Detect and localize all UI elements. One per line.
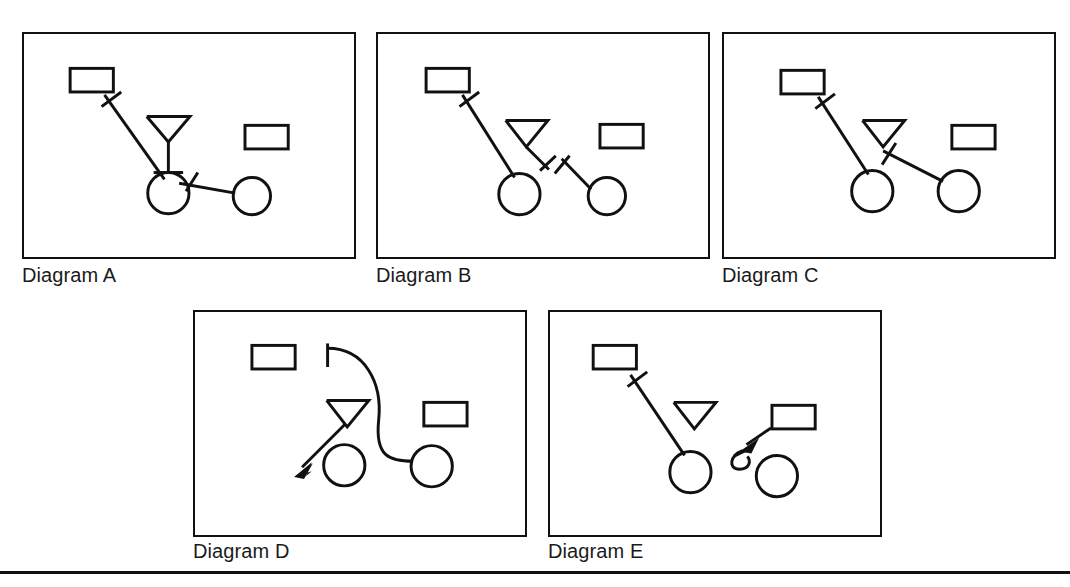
diagram-page: Diagram A Diagram B (0, 0, 1070, 587)
tick-mark-circle-connector (186, 173, 198, 192)
bottom-horizontal-rule (0, 571, 1070, 574)
triangle-down[interactable] (147, 117, 190, 143)
rectangle-right[interactable] (245, 125, 288, 149)
triangle-down[interactable] (327, 400, 369, 427)
diagram-b-canvas (378, 34, 708, 257)
caption-diagram-a: Diagram A (22, 264, 116, 287)
diagram-panel-c[interactable] (722, 32, 1056, 259)
connector-rect-to-circle[interactable] (631, 375, 685, 456)
rectangle-right[interactable] (424, 402, 467, 426)
circle-right[interactable] (233, 177, 270, 214)
circle-left[interactable] (852, 171, 893, 212)
diagram-panel-e[interactable] (548, 310, 882, 537)
caption-diagram-d: Diagram D (193, 540, 289, 563)
diagram-a-canvas (24, 34, 354, 257)
circle-left[interactable] (499, 173, 540, 214)
rectangle-right[interactable] (772, 405, 815, 429)
diagram-d-canvas (195, 312, 525, 535)
diagram-panel-b[interactable] (376, 32, 710, 259)
rectangle-top-left[interactable] (426, 68, 469, 92)
rectangle-right[interactable] (600, 124, 643, 148)
circle-left[interactable] (324, 445, 365, 486)
connector-dangling-to-circle[interactable] (562, 159, 591, 189)
diagram-e-canvas (550, 312, 880, 535)
circle-right[interactable] (411, 446, 452, 487)
diagram-panel-d[interactable] (193, 310, 527, 537)
rectangle-top-left[interactable] (781, 70, 824, 94)
triangle-down[interactable] (674, 402, 716, 429)
circle-left[interactable] (670, 451, 711, 492)
caption-diagram-c: Diagram C (722, 264, 818, 287)
diagram-panel-a[interactable] (22, 32, 356, 259)
circle-right[interactable] (938, 171, 979, 212)
connector-arrow-rect-to-hook[interactable] (746, 428, 771, 445)
circle-left[interactable] (148, 173, 189, 214)
connector-rect-to-circle[interactable] (818, 97, 868, 175)
triangle-down[interactable] (862, 120, 904, 147)
circle-right[interactable] (588, 177, 625, 214)
rectangle-top-left[interactable] (252, 345, 295, 369)
connector-triangle-to-circle[interactable] (883, 151, 943, 181)
connector-rect-to-circle[interactable] (462, 95, 514, 178)
rectangle-top-left[interactable] (70, 68, 113, 92)
rectangle-right[interactable] (952, 125, 995, 149)
triangle-down[interactable] (506, 120, 548, 147)
connector-rect-to-circle[interactable] (105, 95, 165, 179)
rectangle-top-left[interactable] (593, 345, 636, 369)
circle-right[interactable] (756, 455, 797, 496)
caption-diagram-e: Diagram E (548, 540, 643, 563)
caption-diagram-b: Diagram B (376, 264, 471, 287)
diagram-c-canvas (724, 34, 1054, 257)
